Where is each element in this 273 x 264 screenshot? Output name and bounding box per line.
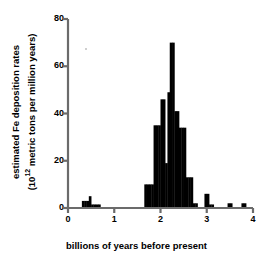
x-axis-tick-label: 3 <box>200 214 214 224</box>
histogram-bar <box>186 177 189 208</box>
histogram-bar <box>158 125 161 208</box>
histogram-bar <box>163 99 166 208</box>
histogram-bar <box>165 163 168 208</box>
histogram-bar <box>179 128 182 208</box>
histogram-bar <box>181 128 184 208</box>
histogram-bar <box>172 43 175 208</box>
histogram-figure: estimated Fe deposition rates (1012 metr… <box>0 0 273 264</box>
histogram-bar <box>188 177 191 208</box>
bars-group <box>82 43 247 208</box>
histogram-bar <box>156 125 159 208</box>
histogram-bar <box>154 125 157 208</box>
histogram-bar <box>207 194 210 208</box>
x-axis-label: billions of years before present <box>0 240 273 251</box>
histogram-bar <box>174 111 177 208</box>
x-axis-tick-label: 1 <box>107 214 121 224</box>
histogram-bar <box>89 196 92 208</box>
histogram-bar <box>161 99 164 208</box>
histogram-bar <box>184 128 187 208</box>
x-axis-tick-label: 2 <box>154 214 168 224</box>
x-axis-tick-label: 0 <box>61 214 75 224</box>
x-axis-tick-label: 4 <box>246 214 260 224</box>
histogram-bar <box>151 184 154 208</box>
histogram-bar <box>170 43 173 208</box>
histogram-bar <box>191 177 194 208</box>
histogram-bar <box>177 111 180 208</box>
histogram-bar <box>149 184 152 208</box>
histogram-bar <box>144 184 147 208</box>
histogram-bar <box>167 92 170 208</box>
plot-area <box>0 0 273 264</box>
histogram-bar <box>204 194 207 208</box>
decorative-speck <box>85 48 87 50</box>
histogram-bar <box>147 184 150 208</box>
